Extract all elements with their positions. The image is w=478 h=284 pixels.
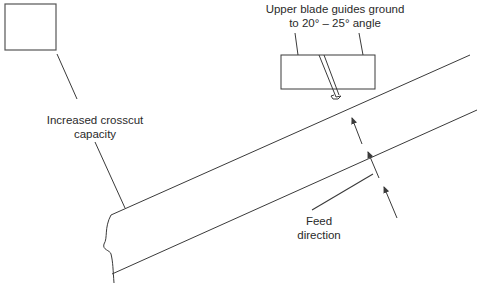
reference-square bbox=[5, 4, 56, 50]
blade-guides-label: Upper blade guides ground to 20° – 25° a… bbox=[260, 2, 410, 30]
feed-arrow-3 bbox=[384, 187, 397, 218]
blade-guide-block bbox=[281, 55, 375, 89]
crosscut-label-line1: Increased crosscut bbox=[35, 113, 155, 127]
blade-guides-label-line1: Upper blade guides ground bbox=[260, 2, 410, 16]
crosscut-leader-line bbox=[95, 142, 125, 208]
feed-label-line1: Feed bbox=[289, 214, 349, 228]
board-bottom-edge bbox=[112, 110, 477, 274]
crosscut-capacity-label: Increased crosscut capacity bbox=[35, 113, 155, 141]
feed-leader-line bbox=[312, 174, 373, 210]
diagram-canvas bbox=[0, 0, 478, 284]
saw-blade-tip bbox=[331, 95, 334, 99]
crosscut-label-line2: capacity bbox=[35, 127, 155, 141]
board-break-line bbox=[104, 215, 114, 283]
saw-blade bbox=[319, 55, 341, 99]
feed-direction-label: Feed direction bbox=[289, 214, 349, 242]
blade-guide-leader-left bbox=[295, 33, 298, 55]
blade-guides-label-line2: to 20° – 25° angle bbox=[260, 16, 410, 30]
board-top-edge bbox=[111, 55, 470, 215]
blade-guide-leader-right bbox=[359, 33, 363, 55]
feed-label-line2: direction bbox=[289, 228, 349, 242]
feed-arrow-1 bbox=[352, 118, 362, 144]
square-leader-line bbox=[57, 54, 77, 99]
feed-arrow-2 bbox=[368, 152, 379, 178]
